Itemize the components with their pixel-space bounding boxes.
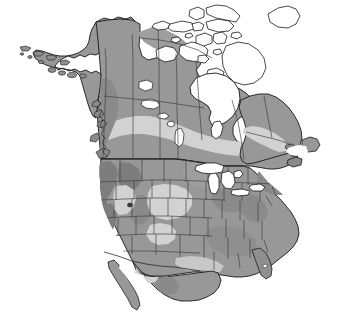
lake-okeechobee [263, 264, 267, 268]
great-salt-lake [127, 203, 132, 207]
great-bear-lake [139, 80, 153, 91]
prince-of-wales-island [196, 33, 212, 46]
lake-erie [231, 189, 250, 196]
north-america-map [0, 0, 355, 321]
range-map-figure [0, 0, 355, 321]
